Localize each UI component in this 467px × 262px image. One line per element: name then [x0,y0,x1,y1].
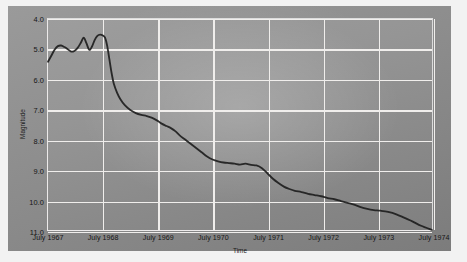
y-tick-label: 10.0 [29,197,44,206]
x-tick-label: July 1971 [253,234,284,242]
gridline-horizontal [48,202,432,203]
gridline-vertical [269,19,270,230]
y-tick-label: 6.0 [33,75,44,84]
y-tick-label: 9.0 [33,167,44,176]
y-tick-label: 4.0 [33,15,44,24]
x-tick-label: July 1967 [33,234,64,242]
y-axis-label: Magnitude [19,109,26,139]
x-tick-label: July 1968 [88,234,119,242]
x-tick-label: July 1974 [419,234,450,242]
x-axis-label: Time [233,247,247,254]
gridline-vertical [213,19,214,230]
x-tick-label: July 1972 [308,234,339,242]
y-tick-label: 8.0 [33,136,44,145]
gridline-vertical [324,19,325,230]
plot-area: 4.05.06.07.08.09.010.011.0 July 1967July… [47,18,433,231]
gridline-horizontal [48,171,432,172]
chart-panel: Magnitude Time 4.05.06.07.08.09.010.011.… [8,6,451,251]
x-tick-label: July 1973 [363,234,394,242]
figure-container: Magnitude Time 4.05.06.07.08.09.010.011.… [0,0,467,262]
gridline-horizontal [48,80,432,81]
gridline-horizontal [48,19,432,20]
y-tick-label: 7.0 [33,106,44,115]
y-tick-label: 5.0 [33,45,44,54]
gridline-horizontal [48,110,432,111]
gridline-horizontal [48,141,432,142]
gridline-vertical [434,19,435,230]
x-tick-label: July 1970 [198,234,229,242]
x-tick-label: July 1969 [143,234,174,242]
gridline-vertical [158,19,159,230]
gridline-vertical [379,19,380,230]
gridline-vertical [103,19,104,230]
gridline-horizontal [48,49,432,50]
